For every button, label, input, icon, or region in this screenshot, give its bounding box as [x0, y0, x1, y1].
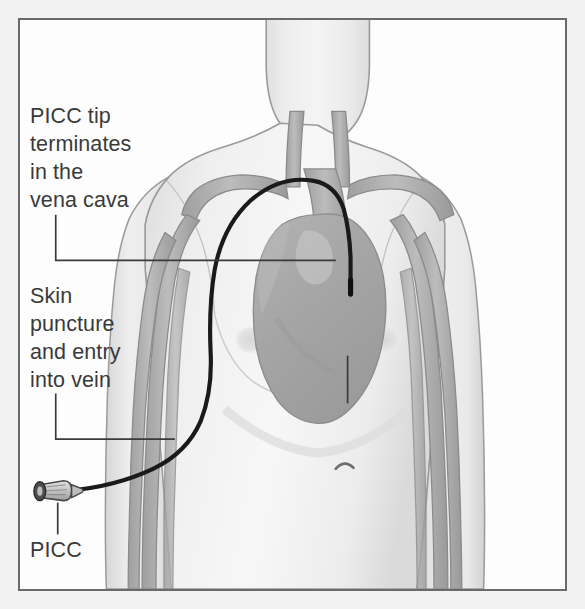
illustration-frame: PICC tip terminates in the vena cava Ski… [18, 18, 567, 591]
illustration-page: PICC tip terminates in the vena cava Ski… [0, 0, 585, 609]
callout-skin-puncture: Skin puncture and entry into vein [30, 282, 121, 394]
hub-luer-bore [37, 487, 42, 496]
callout-picc-device: PICC [30, 536, 82, 564]
hub-taper [72, 485, 83, 498]
picc-hub [34, 481, 83, 501]
callout-picc-tip: PICC tip terminates in the vena cava [30, 102, 131, 214]
